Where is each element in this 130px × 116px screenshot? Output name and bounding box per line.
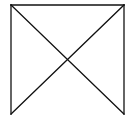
crossed-square-diagram (0, 0, 130, 116)
diagram-canvas (0, 0, 130, 116)
